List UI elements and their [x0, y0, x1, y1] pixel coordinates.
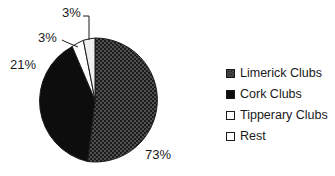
legend-item-rest[interactable]: Rest	[226, 127, 335, 145]
chart-legend: Limerick Clubs Cork Clubs Tipperary Club…	[226, 64, 335, 148]
legend-label-cork-clubs: Cork Clubs	[240, 88, 302, 101]
data-label-cork-clubs: 21%	[10, 57, 36, 72]
data-label-limerick-clubs: 73%	[145, 147, 171, 162]
legend-item-cork-clubs[interactable]: Cork Clubs	[226, 85, 335, 103]
legend-label-limerick-clubs: Limerick Clubs	[240, 67, 322, 80]
pie-slice-limerick-clubs	[88, 38, 158, 162]
data-label-tipperary-clubs: 3%	[38, 30, 57, 45]
white-outline-swatch-icon	[226, 132, 235, 141]
legend-item-tipperary-clubs[interactable]: Tipperary Clubs	[226, 106, 335, 124]
leader-line-tipperary-elbow	[62, 40, 66, 42]
dotted-dark-swatch-icon	[226, 69, 235, 78]
legend-item-limerick-clubs[interactable]: Limerick Clubs	[226, 64, 335, 82]
data-label-rest: 3%	[62, 5, 81, 20]
solid-black-swatch-icon	[226, 90, 235, 99]
legend-label-rest: Rest	[240, 130, 266, 143]
white-outline-swatch-icon	[226, 111, 235, 120]
pie-chart-figure: 3% 3% 21% 73% Limerick Clubs Cork Clubs …	[0, 0, 335, 176]
legend-label-tipperary-clubs: Tipperary Clubs	[240, 109, 328, 122]
